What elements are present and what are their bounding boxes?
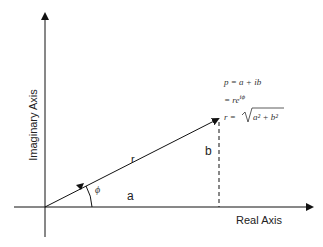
vector-label: r bbox=[131, 153, 135, 165]
equation-line-2: = reiϕ bbox=[224, 93, 245, 105]
complex-plane-diagram: Imaginary Axis Real Axis r ϕ a b p = a +… bbox=[0, 0, 323, 247]
x-axis-label: Real Axis bbox=[236, 214, 282, 226]
real-part-label: a bbox=[127, 189, 134, 203]
angle-arrowhead bbox=[76, 183, 84, 190]
angle-label: ϕ bbox=[95, 184, 100, 195]
sqrt-radicand: a² + b² bbox=[253, 112, 278, 122]
imag-part-label: b bbox=[205, 144, 212, 158]
y-axis-label: Imaginary Axis bbox=[27, 89, 39, 161]
equation-line-3: r = bbox=[224, 112, 236, 122]
equation-line-1: p = a + ib bbox=[223, 77, 262, 87]
angle-arc bbox=[86, 186, 92, 207]
